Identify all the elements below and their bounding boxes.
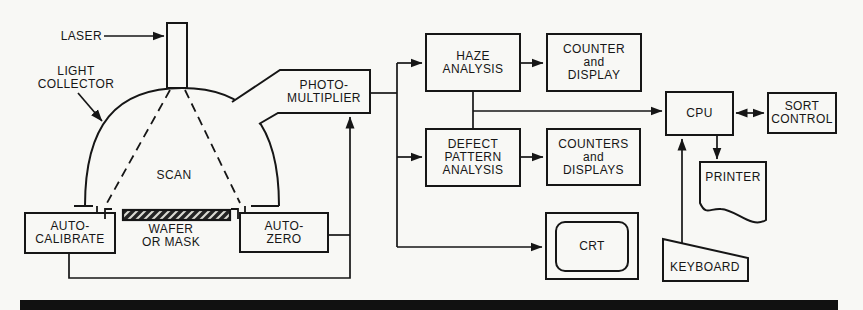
photomultiplier-label: PHOTO- MULTIPLIER	[278, 70, 370, 113]
scan-label: SCAN	[147, 167, 201, 183]
bottom-rule	[20, 300, 838, 310]
scan-beam-right	[185, 90, 240, 203]
block-diagram: LASER LIGHT COLLECTOR SCAN WAFER OR MASK…	[0, 0, 863, 310]
wafer-or-mask-label: WAFER OR MASK	[124, 222, 218, 250]
sort-control-box: SORT CONTROL	[767, 92, 837, 134]
crt-monitor: CRT	[545, 212, 639, 280]
cpu-box: CPU	[665, 91, 734, 136]
defect-pattern-analysis-box: DEFECT PATTERN ANALYSIS	[425, 128, 521, 187]
printer-label: PRINTER	[701, 169, 765, 186]
crt-screen: CRT	[555, 221, 629, 272]
crt-label: CRT	[579, 240, 605, 253]
light-collector-pointer-arrow	[78, 93, 102, 121]
scan-beam-left	[107, 90, 170, 203]
light-collector-label: LIGHT COLLECTOR	[28, 64, 124, 92]
auto-calibrate-box: AUTO- CALIBRATE	[24, 212, 116, 254]
wafer-hatched-bar	[123, 210, 230, 220]
auto-zero-box: AUTO- ZERO	[239, 212, 329, 253]
counter-and-display-box: COUNTER and DISPLAY	[546, 33, 642, 92]
keyboard-label: KEYBOARD	[662, 259, 748, 276]
laser-tube	[166, 22, 188, 89]
counters-and-displays-box: COUNTERS and DISPLAYS	[546, 128, 641, 186]
haze-analysis-box: HAZE ANALYSIS	[425, 33, 521, 92]
laser-label: LASER	[36, 29, 102, 43]
